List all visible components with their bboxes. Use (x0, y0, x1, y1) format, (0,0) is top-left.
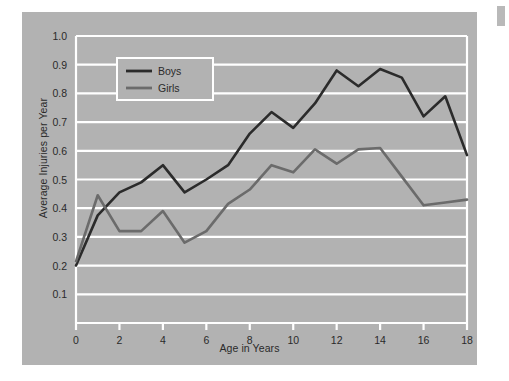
legend-label-boys: Boys (158, 65, 181, 77)
y-tick-label-0.7: 0.7 (52, 116, 67, 128)
series-line-girls (76, 148, 467, 261)
figure-root: 024681012141618 0.10.20.30.40.50.60.70.8… (0, 0, 509, 381)
legend: BoysGirls (117, 58, 213, 100)
x-axis-title: Age in Years (22, 342, 477, 354)
y-axis-title: Average Injuries per Year (37, 73, 49, 243)
y-tick-label-0.3: 0.3 (52, 231, 67, 243)
y-tick-label-0.6: 0.6 (52, 145, 67, 157)
y-tick-label-0.4: 0.4 (52, 202, 67, 214)
y-tick-label-group: 0.10.20.30.40.50.60.70.80.91.0 (52, 30, 67, 300)
y-tick-label-0.2: 0.2 (52, 260, 67, 272)
chart-panel: 024681012141618 0.10.20.30.40.50.60.70.8… (22, 12, 477, 365)
edge-marker-artifact (497, 6, 505, 26)
y-tick-label-1.0: 1.0 (52, 30, 67, 42)
line-chart-plot: 024681012141618 0.10.20.30.40.50.60.70.8… (22, 12, 477, 365)
y-tick-label-0.8: 0.8 (52, 87, 67, 99)
y-tick-label-0.5: 0.5 (52, 174, 67, 186)
legend-label-girls: Girls (158, 82, 180, 94)
y-tick-label-0.9: 0.9 (52, 59, 67, 71)
y-tick-label-0.1: 0.1 (52, 288, 67, 300)
